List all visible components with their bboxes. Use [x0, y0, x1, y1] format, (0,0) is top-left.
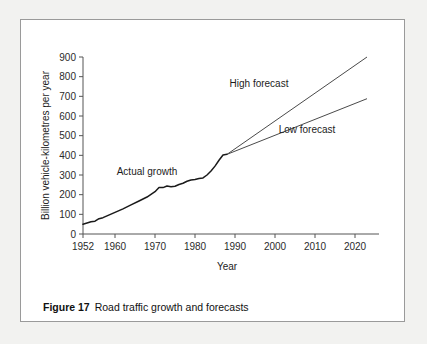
y-tick-label: 900: [59, 52, 76, 63]
x-tick-label: 1952: [72, 241, 95, 252]
figure-caption-text: Road traffic growth and forecasts: [95, 301, 249, 313]
x-tick-label: 1990: [224, 241, 247, 252]
figure-caption-number: Figure 17: [43, 301, 90, 313]
series-line-high-forecast: [227, 57, 367, 154]
y-tick-label: 400: [59, 150, 76, 161]
x-tick-label: 2000: [264, 241, 287, 252]
series-line-actual-growth: [83, 154, 227, 224]
x-tick-label: 2020: [344, 241, 367, 252]
y-axis: 0100200300400500600700800900 Billion veh…: [40, 52, 83, 240]
chart-annotation-high-forecast: High forecast: [230, 78, 289, 89]
y-tick-label: 200: [59, 189, 76, 200]
x-axis-ticks: 19521960197019801990200020102020: [72, 234, 367, 252]
y-tick-label: 100: [59, 209, 76, 220]
y-tick-label: 600: [59, 111, 76, 122]
y-axis-ticks: 0100200300400500600700800900: [59, 52, 83, 240]
y-tick-label: 300: [59, 170, 76, 181]
figure-caption: Figure 17Road traffic growth and forecas…: [43, 301, 249, 313]
chart-annotations: Actual growthHigh forecastLow forecast: [117, 78, 336, 177]
y-tick-label: 800: [59, 71, 76, 82]
chart-series-group: [83, 57, 367, 224]
x-axis-title: Year: [217, 261, 238, 272]
y-tick-label: 700: [59, 91, 76, 102]
y-tick-label: 500: [59, 130, 76, 141]
chart-annotation-low-forecast: Low forecast: [279, 124, 336, 135]
x-tick-label: 1980: [184, 241, 207, 252]
x-tick-label: 1960: [104, 241, 127, 252]
chart-plot-area: 0100200300400500600700800900 Billion veh…: [21, 20, 406, 285]
x-tick-label: 2010: [304, 241, 327, 252]
chart-svg: 0100200300400500600700800900 Billion veh…: [21, 20, 406, 285]
figure-frame: 0100200300400500600700800900 Billion veh…: [20, 19, 405, 322]
chart-annotation-actual-growth: Actual growth: [117, 166, 178, 177]
x-axis: 19521960197019801990200020102020 Year: [72, 234, 379, 272]
y-axis-title: Billion vehicle-kilometres per year: [40, 70, 51, 220]
y-tick-label: 0: [70, 229, 76, 240]
x-tick-label: 1970: [144, 241, 167, 252]
